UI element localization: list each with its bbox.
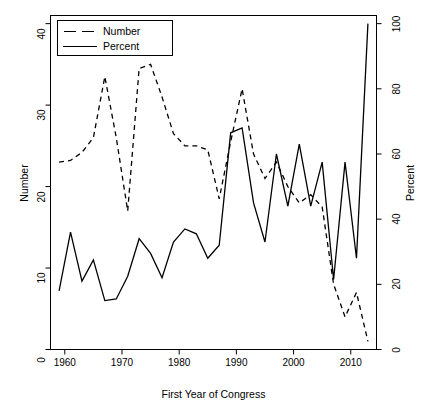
x-tick-label: 1990 — [220, 358, 252, 368]
legend-box: Number Percent — [57, 20, 173, 56]
plot-graphics — [0, 0, 427, 417]
x-axis-ticks — [65, 350, 351, 355]
right-axis-ticks — [377, 24, 382, 350]
y2-tick-label: 60 — [392, 143, 402, 165]
x-tick-label: 1970 — [106, 358, 138, 368]
y2-tick-label: 20 — [392, 273, 402, 295]
y2-axis-title: Percent — [404, 153, 416, 213]
solid-line-icon — [63, 42, 97, 52]
series-line-number — [59, 64, 368, 341]
y-tick-label: 0 — [37, 350, 47, 370]
y-tick-label: 40 — [37, 24, 47, 44]
legend-label-percent: Percent — [103, 41, 139, 52]
legend-item-number: Number — [63, 24, 167, 39]
y2-tick-label: 0 — [392, 339, 402, 361]
y-axis-title: Number — [18, 153, 30, 213]
y-tick-label: 30 — [37, 105, 47, 125]
x-tick-label: 1980 — [163, 358, 195, 368]
y2-tick-label: 100 — [392, 13, 402, 35]
x-axis-title: First Year of Congress — [0, 388, 427, 400]
dashed-line-icon — [63, 27, 97, 37]
x-tick-label: 2000 — [278, 358, 310, 368]
legend-item-percent: Percent — [63, 39, 167, 54]
x-tick-label: 1960 — [49, 358, 81, 368]
y-tick-label: 10 — [37, 268, 47, 288]
y2-tick-label: 80 — [392, 78, 402, 100]
legend-label-number: Number — [103, 26, 140, 37]
chart-figure: Number Percent Number Percent First Year… — [0, 0, 427, 417]
y2-tick-label: 40 — [392, 208, 402, 230]
series-line-percent — [59, 24, 368, 301]
x-tick-label: 2010 — [335, 358, 367, 368]
y-tick-label: 20 — [37, 187, 47, 207]
